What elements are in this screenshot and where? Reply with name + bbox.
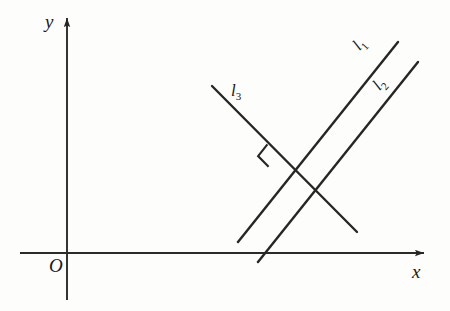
line-label-l3-subscript: 3 bbox=[236, 90, 242, 102]
x-axis-label: x bbox=[412, 262, 420, 281]
line-l3 bbox=[212, 86, 357, 232]
figure-canvas: y x O l1 l2 l3 bbox=[0, 0, 450, 311]
line-label-l3: l3 bbox=[231, 82, 241, 102]
origin-label: O bbox=[49, 256, 63, 275]
y-axis-label: y bbox=[45, 12, 53, 31]
line-l2 bbox=[258, 62, 418, 262]
geometry-diagram bbox=[0, 0, 450, 311]
line-l1 bbox=[238, 42, 398, 242]
right-angle-square bbox=[258, 144, 269, 166]
